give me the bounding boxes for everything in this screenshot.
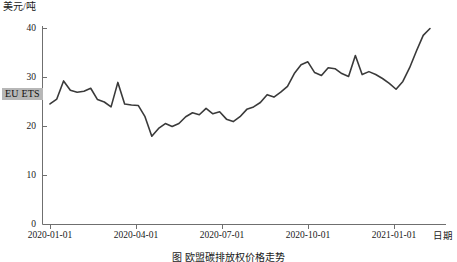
series-label-eu-ets: EU ETS: [2, 88, 43, 100]
x-tick-label-3: 2020-10-01: [286, 230, 330, 240]
y-tick-marks: [43, 29, 48, 176]
x-tick-label-0: 2020-01-01: [28, 230, 72, 240]
chart-plot-area: [0, 0, 457, 262]
figure-caption: 图 欧盟碳排放权价格走势: [0, 249, 457, 262]
chart-figure: 美元/吨 40 30 20 10 0 EU ETS 2020-01-01 202…: [0, 0, 457, 262]
x-tick-label-1: 2020-04-01: [114, 230, 158, 240]
x-axis-title: 日期: [433, 228, 453, 242]
data-series-line-eu-ets: [50, 29, 430, 137]
x-tick-label-2: 2020-07-01: [200, 230, 244, 240]
x-tick-label-4: 2021-01-01: [372, 230, 416, 240]
x-tick-marks: [51, 225, 395, 230]
